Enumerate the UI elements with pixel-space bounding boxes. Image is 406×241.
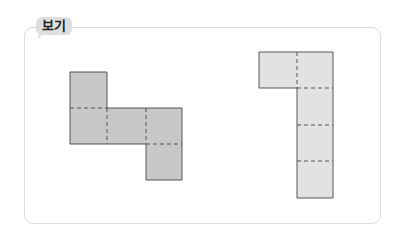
figures-canvas <box>0 0 406 241</box>
left-net-figure <box>70 72 182 180</box>
right-net-figure <box>259 52 333 198</box>
